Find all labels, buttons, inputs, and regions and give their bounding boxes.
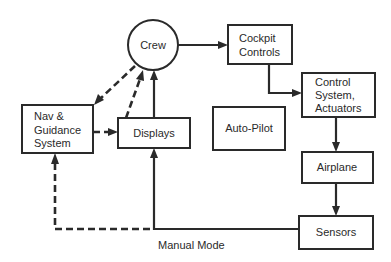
edge-nav-to-displays [93,128,118,136]
cockpit-label-line2: Controls [239,46,280,58]
edge-displays-to-crew-dashed [126,70,144,118]
edge-sensors-to-nav [51,153,150,229]
edge-airplane-to-sensors [332,183,340,216]
edge-sensors-to-displays [150,148,299,229]
node-cockpit-controls: Cockpit Controls [228,25,292,64]
airplane-label: Airplane [317,161,357,173]
edge-cockpit-to-control [269,64,302,97]
arrowhead-icon [51,153,59,164]
node-nav-guidance: Nav & Guidance System [22,105,93,153]
caption-manual-mode: Manual Mode [158,239,225,251]
edge-crew-to-cockpit [178,41,228,49]
nav-label-line2: Guidance [34,124,81,136]
edge-displays-to-crew-solid [150,70,158,118]
arrowhead-icon [332,142,340,152]
control-label-line1: Control [315,76,350,88]
arrowhead-icon [136,70,144,81]
arrowhead-icon [150,148,158,158]
arrowhead-icon [332,206,340,216]
node-displays: Displays [118,118,190,148]
arrowhead-icon [108,128,118,136]
autopilot-label: Auto-Pilot [225,122,273,134]
arrowhead-icon [218,41,228,49]
control-label-line3: Actuators [315,102,362,114]
sensors-label: Sensors [316,226,357,238]
node-crew: Crew [128,20,178,70]
edge-crew-to-nav [94,66,135,105]
arrowhead-icon [150,70,158,80]
manual-mode-diagram: Crew Cockpit Controls Control System, Ac… [0,0,391,262]
cockpit-label-line1: Cockpit [239,32,276,44]
crew-label: Crew [140,39,166,51]
node-autopilot: Auto-Pilot [213,107,285,150]
nav-label-line1: Nav & [34,110,65,122]
control-label-line2: System, [315,89,355,101]
node-control-system: Control System, Actuators [302,73,375,117]
node-airplane: Airplane [302,152,373,183]
arrowhead-icon [94,94,104,105]
nav-label-line3: System [34,137,71,149]
node-sensors: Sensors [299,216,373,249]
displays-label: Displays [133,127,175,139]
arrowhead-icon [292,89,302,97]
edge-control-to-airplane [332,117,340,152]
